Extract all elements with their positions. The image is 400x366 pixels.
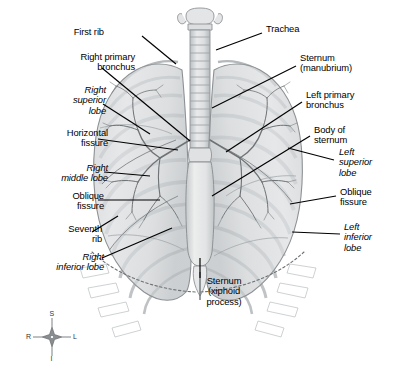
label-body-of-sternum: Body of sternum [314, 125, 347, 146]
label-left-superior-lobe: Left superior lobe [339, 147, 372, 178]
anatomy-figure: First rib Right primary bronchus Right s… [0, 0, 400, 366]
label-right-primary-bronchus: Right primary bronchus [81, 52, 135, 73]
label-seventh-rib: Seventh rib [68, 224, 102, 245]
label-right-superior-lobe: Right superior lobe [73, 85, 106, 116]
trachea [190, 30, 210, 148]
label-oblique-fissure-left: Oblique fissure [340, 187, 372, 208]
compass-superior-letter: S [50, 310, 55, 317]
label-right-middle-lobe: Right middle lobe [61, 163, 108, 184]
label-trachea: Trachea [266, 24, 299, 34]
compass-left-letter: L [73, 333, 77, 340]
orientation-compass [33, 318, 71, 356]
larynx [178, 8, 223, 30]
label-oblique-fissure-right: Oblique fissure [72, 191, 104, 212]
label-first-rib: First rib [74, 27, 104, 37]
compass-right-letter: R [26, 333, 31, 340]
label-sternum-xiphoid: Sternum (xiphoid process) [168, 276, 280, 307]
label-sternum-manubrium: Sternum (manubrium) [300, 53, 352, 74]
label-left-inferior-lobe: Left inferior lobe [344, 222, 372, 253]
compass-inferior-letter: I [51, 355, 53, 362]
label-horizontal-fissure: Horizontal fissure [67, 128, 108, 149]
label-right-inferior-lobe: Right inferior lobe [56, 252, 104, 273]
label-left-primary-bronchus: Left primary bronchus [306, 90, 354, 111]
